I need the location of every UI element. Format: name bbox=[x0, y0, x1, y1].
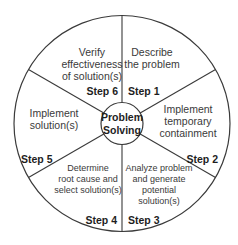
segment-text: Describe bbox=[131, 46, 173, 58]
segment-text: containment bbox=[159, 127, 216, 139]
step-label: Step 4 bbox=[85, 214, 117, 226]
segment-text: select solution(s) bbox=[54, 185, 122, 195]
center-hub: Problem Solving bbox=[101, 103, 143, 145]
segment-text: of solution(s) bbox=[62, 70, 122, 82]
segment-text: Verify bbox=[79, 46, 106, 58]
segment-text: potential bbox=[142, 185, 176, 195]
step-label: Step 1 bbox=[128, 85, 160, 97]
segment-text: the problem bbox=[124, 58, 180, 70]
segment-text: Implement bbox=[29, 107, 78, 119]
segment-text: temporary bbox=[164, 115, 212, 127]
segment-text: Implement bbox=[163, 103, 212, 115]
center-label-line2: Solving bbox=[103, 124, 141, 136]
segment-text: root cause and bbox=[58, 174, 118, 184]
step-label: Step 3 bbox=[128, 214, 160, 226]
segment-text: Determine bbox=[67, 163, 109, 173]
step-label: Step 6 bbox=[86, 85, 118, 97]
segment-text: Analyze problem bbox=[125, 163, 192, 173]
problem-solving-cycle-diagram: Problem Solving Describe the problem Ste… bbox=[0, 0, 238, 245]
step-label: Step 5 bbox=[21, 153, 53, 165]
segment-text: solution(s) bbox=[138, 196, 180, 206]
segment-text: and generate bbox=[132, 174, 185, 184]
center-label-line1: Problem bbox=[101, 111, 143, 123]
segment-text: effectiveness bbox=[61, 58, 122, 70]
segment-text: solution(s) bbox=[30, 119, 78, 131]
